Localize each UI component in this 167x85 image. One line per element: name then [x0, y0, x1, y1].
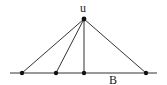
edge-u-p2 [56, 19, 84, 73]
star-diagram: u B [0, 0, 167, 85]
diagram-canvas: u B [0, 0, 167, 85]
apex-point-u [82, 17, 87, 22]
base-point-4 [144, 71, 148, 75]
base-point-2 [54, 71, 58, 75]
base-point-1 [20, 71, 24, 75]
edge-u-p1 [22, 19, 84, 73]
apex-label: u [80, 1, 86, 15]
edge-u-p4 [84, 19, 146, 73]
base-point-3 [82, 71, 86, 75]
baseline-label: B [109, 73, 117, 85]
